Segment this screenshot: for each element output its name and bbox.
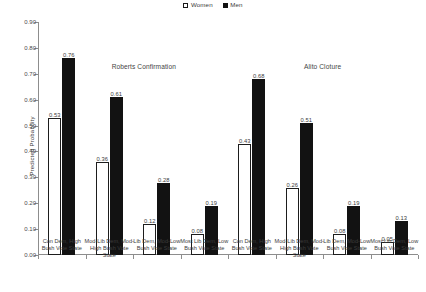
y-axis-line bbox=[38, 22, 39, 255]
x-category-label: Most Lib Dem, Low Bush Vote State bbox=[369, 238, 421, 252]
bar-men: 0.76 bbox=[62, 58, 75, 255]
bar-value-label: 0.36 bbox=[97, 156, 108, 162]
legend-entry-men: Men bbox=[223, 2, 243, 8]
x-category-label: Con Dem, High Bush Vote State bbox=[226, 238, 278, 252]
legend-entry-women: Women bbox=[183, 2, 212, 8]
y-tick-label: 0.70 bbox=[24, 71, 36, 77]
x-category-label: Lib Dem, Mod-Low Bush Vote State bbox=[131, 238, 183, 252]
x-tick-mark bbox=[371, 255, 372, 259]
legend-swatch-men-icon bbox=[223, 3, 228, 8]
legend-label-women: Women bbox=[191, 2, 213, 8]
bar-men: 0.61 bbox=[110, 97, 123, 255]
bar-value-label: 0.26 bbox=[287, 182, 298, 188]
bar-men: 0.51 bbox=[300, 123, 313, 255]
x-category-label: Con Dem, High Bush Vote State bbox=[36, 238, 88, 252]
y-tick-label: 0.60 bbox=[24, 97, 36, 103]
x-tick-mark bbox=[418, 255, 419, 259]
panel-title-alito: Alito Cloture bbox=[304, 63, 341, 70]
y-tick-label: 0.90 bbox=[24, 19, 36, 25]
panel-title-roberts: Roberts Confirmation bbox=[112, 63, 176, 70]
legend-label-men: Men bbox=[230, 2, 242, 8]
x-tick-mark bbox=[181, 255, 182, 259]
y-tick-label: 0.20 bbox=[24, 200, 36, 206]
x-tick-mark bbox=[228, 255, 229, 259]
x-category-label: Mod-Lib Dem, Mod-High Bush Vote State bbox=[84, 238, 136, 260]
x-tick-mark bbox=[38, 255, 39, 259]
bar-value-label: 0.61 bbox=[111, 91, 122, 97]
bar-value-label: 0.28 bbox=[158, 177, 169, 183]
bar-value-label: 0.19 bbox=[348, 200, 359, 206]
x-category-label: Mod-Lib Dem, Mod-High Bush Vote State bbox=[274, 238, 326, 260]
legend-swatch-women-icon bbox=[183, 3, 188, 8]
y-tick-label: 0.40 bbox=[24, 148, 36, 154]
bar-value-label: 0.53 bbox=[49, 112, 60, 118]
chart-legend: Women Men bbox=[0, 2, 426, 8]
y-tick-label: 0.30 bbox=[24, 174, 36, 180]
bar-value-label: 0.13 bbox=[396, 215, 407, 221]
bar-value-label: 0.19 bbox=[206, 200, 217, 206]
bar-men: 0.68 bbox=[252, 79, 265, 255]
bar-value-label: 0.08 bbox=[334, 228, 345, 234]
bar-value-label: 0.76 bbox=[63, 52, 74, 58]
y-tick-label: 0.80 bbox=[24, 45, 36, 51]
bar-value-label: 0.51 bbox=[301, 117, 312, 123]
y-tick-label: 0.50 bbox=[24, 123, 36, 129]
bar-women: 0.53 bbox=[48, 118, 61, 255]
y-tick-label: 0.10 bbox=[24, 226, 36, 232]
plot-area: 0.000.100.200.300.400.500.600.700.800.90… bbox=[38, 22, 418, 255]
bar-value-label: 0.08 bbox=[192, 228, 203, 234]
x-category-label: Lib Dem, Mod-Low Bush Vote State bbox=[321, 238, 373, 252]
bar-value-label: 0.43 bbox=[239, 138, 250, 144]
y-tick-label: 0.00 bbox=[24, 252, 36, 258]
x-category-label: Most Lib Dem, Low Bush Vote State bbox=[179, 238, 231, 252]
bar-value-label: 0.12 bbox=[144, 218, 155, 224]
bar-value-label: 0.68 bbox=[253, 73, 264, 79]
